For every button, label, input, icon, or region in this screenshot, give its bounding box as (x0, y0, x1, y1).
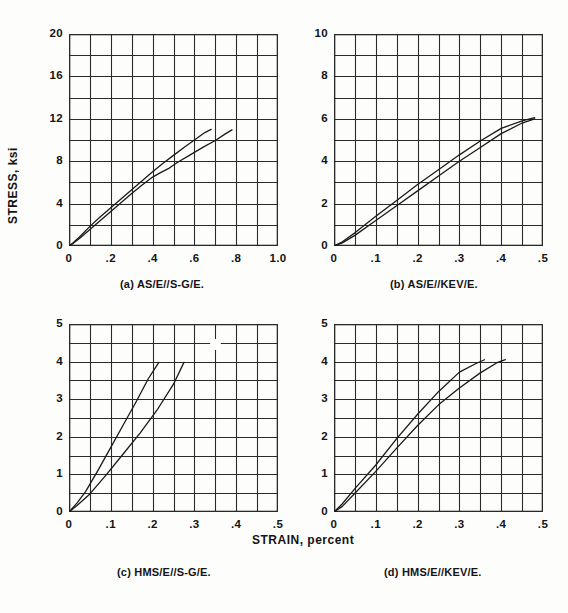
caption-panel-a: (a) AS/E//S-G/E. (120, 278, 204, 290)
chart-panel-c (69, 324, 278, 512)
x-tick-label: 1.0 (263, 252, 293, 264)
chart-panel-d (334, 324, 543, 512)
y-tick-label: 4 (33, 197, 63, 209)
x-tick-label: 0 (319, 518, 349, 530)
y-tick-label: 5 (33, 317, 63, 329)
y-tick-label: 4 (298, 355, 328, 367)
x-tick-label: .1 (361, 252, 391, 264)
x-tick-label: .3 (444, 252, 474, 264)
data-curve-curve-1 (334, 360, 484, 512)
y-tick-label: 1 (33, 467, 63, 479)
x-tick-label: .6 (179, 252, 209, 264)
x-tick-label: .5 (528, 252, 558, 264)
y-tick-label: 0 (33, 505, 63, 517)
y-tick-label: 3 (298, 392, 328, 404)
y-tick-label: 4 (298, 154, 328, 166)
y-tick-label: 1 (298, 467, 328, 479)
x-tick-label: .4 (138, 252, 168, 264)
plot-area-b (334, 34, 543, 246)
caption-panel-c: (c) HMS/E//S-G/E. (117, 566, 211, 578)
x-tick-label: .4 (221, 518, 251, 530)
y-tick-label: 8 (298, 69, 328, 81)
x-tick-label: .4 (486, 252, 516, 264)
y-tick-label: 16 (33, 69, 63, 81)
x-tick-label: .8 (221, 252, 251, 264)
plot-area-c (69, 324, 278, 512)
x-tick-label: 0 (319, 252, 349, 264)
plot-area-a (69, 34, 278, 246)
y-tick-label: 10 (298, 27, 328, 39)
y-tick-label: 2 (298, 197, 328, 209)
scan-artifact (210, 339, 221, 350)
x-tick-label: .1 (361, 518, 391, 530)
y-tick-label: 20 (33, 27, 63, 39)
y-tick-label: 0 (298, 239, 328, 251)
y-tick-label: 2 (33, 430, 63, 442)
x-tick-label: .2 (138, 518, 168, 530)
y-tick-label: 4 (33, 355, 63, 367)
caption-panel-b: (b) AS/E//KEV/E. (390, 278, 478, 290)
plot-area-d (334, 324, 543, 512)
chart-panel-a (69, 34, 278, 246)
y-tick-label: 8 (33, 154, 63, 166)
y-tick-label: 2 (298, 430, 328, 442)
y-axis-title: STRESS, ksi (6, 104, 20, 224)
x-tick-label: .5 (528, 518, 558, 530)
x-tick-label: .4 (486, 518, 516, 530)
data-curve-curve-2 (69, 130, 232, 246)
y-tick-label: 0 (33, 239, 63, 251)
y-tick-label: 3 (33, 392, 63, 404)
y-tick-label: 6 (298, 112, 328, 124)
data-curve-curve-1 (334, 118, 535, 246)
x-tick-label: .2 (96, 252, 126, 264)
data-curve-curve-2 (334, 360, 505, 512)
x-tick-label: .2 (403, 518, 433, 530)
x-tick-label: .3 (179, 518, 209, 530)
x-tick-label: .3 (444, 518, 474, 530)
figure-root: STRESS, ksi STRAIN, percent (a) AS/E//S-… (0, 0, 568, 613)
x-tick-label: 0 (54, 518, 84, 530)
caption-panel-d: (d) HMS/E//KEV/E. (384, 566, 482, 578)
x-tick-label: .1 (96, 518, 126, 530)
y-tick-label: 12 (33, 112, 63, 124)
x-tick-label: 0 (54, 252, 84, 264)
chart-panel-b (334, 34, 543, 246)
x-tick-label: .2 (403, 252, 433, 264)
y-tick-label: 5 (298, 317, 328, 329)
x-axis-title: STRAIN, percent (252, 533, 354, 547)
y-tick-label: 0 (298, 505, 328, 517)
x-tick-label: .5 (263, 518, 293, 530)
